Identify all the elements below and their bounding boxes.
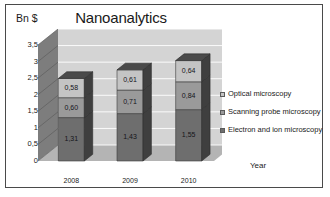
legend-swatch-icon [220,128,225,133]
legend-label: Optical microscopy [228,90,291,98]
legend-item[interactable]: Optical microscopy [220,85,328,103]
plot-3d-graphic [18,29,222,177]
legend-swatch-icon [220,110,225,115]
y-axis-tick-label: 0,5 [28,140,38,148]
legend-swatch-icon [220,92,225,97]
legend-label: Scanning probe microscopy [228,108,321,116]
x-axis-title: Year [250,161,266,170]
legend-item[interactable]: Electron and ion microscopy [220,121,328,139]
legend-label: Electron and ion microscopy [228,126,322,134]
legend-item[interactable]: Scanning probe microscopy [220,103,328,121]
y-axis-tick-label: 3,5 [28,41,38,49]
y-axis-tick-label: 1,5 [28,107,38,115]
chart-title: Nanoanalytics [6,9,236,26]
plot-area: 1,310,600,581,430,710,611,550,840,64 [18,29,222,177]
x-axis-tick-label: 2008 [57,177,85,184]
y-axis-tick-label: 2 [34,91,38,99]
y-axis-tick-label: 3 [34,58,38,66]
legend: Optical microscopyScanning probe microsc… [220,85,328,139]
chart-frame: Bn $ Nanoanalytics 1,310,600,581,430,710… [5,4,323,188]
x-axis-tick-label: 2010 [175,177,203,184]
y-axis-tick-label: 0 [34,157,38,165]
y-axis-tick-label: 2,5 [28,74,38,82]
x-axis-tick-label: 2009 [116,177,144,184]
x-axis-ticks: 200820092010 [18,175,248,189]
y-axis-ticks: 00,511,522,533,5 [18,29,38,177]
y-axis-tick-label: 1 [34,124,38,132]
